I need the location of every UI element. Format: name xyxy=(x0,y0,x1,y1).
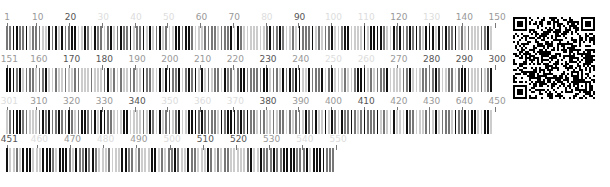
sequence-bar xyxy=(22,148,24,172)
sequence-bar xyxy=(341,26,343,50)
sequence-bar xyxy=(141,148,143,172)
sequence-bar xyxy=(247,110,249,134)
sequence-bar xyxy=(406,26,408,50)
sequence-bar xyxy=(45,68,47,92)
sequence-bar xyxy=(19,26,21,50)
sequence-bar xyxy=(403,26,405,50)
sequence-bar xyxy=(165,110,167,134)
sequence-bar xyxy=(68,26,70,50)
position-label: 350 xyxy=(161,96,178,106)
sequence-bar xyxy=(484,26,486,50)
sequence-bar xyxy=(237,68,239,92)
sequence-bar xyxy=(263,148,265,172)
sequence-bar xyxy=(55,148,57,172)
sequence-bar xyxy=(112,148,114,172)
sequence-bar xyxy=(416,68,418,92)
sequence-bar xyxy=(120,68,122,92)
sequence-bar xyxy=(299,68,301,92)
position-label: 640 xyxy=(456,96,473,106)
sequence-bar xyxy=(175,26,177,50)
sequence-bar xyxy=(177,148,179,172)
position-label: 400 xyxy=(325,96,342,106)
barcode-bars xyxy=(6,26,497,50)
sequence-bar xyxy=(217,148,219,172)
sequence-bar xyxy=(279,110,281,134)
sequence-bar xyxy=(97,110,99,134)
sequence-bar xyxy=(123,110,125,134)
sequence-bar xyxy=(144,148,146,172)
sequence-bar xyxy=(94,26,96,50)
sequence-bar xyxy=(211,110,213,134)
sequence-bar xyxy=(117,26,119,50)
sequence-bar xyxy=(19,68,21,92)
sequence-bar xyxy=(458,68,460,92)
sequence-bar xyxy=(175,68,177,92)
sequence-bar xyxy=(146,110,148,134)
sequence-bar xyxy=(435,110,437,134)
sequence-bar xyxy=(334,110,336,134)
sequence-bar xyxy=(224,110,226,134)
position-label: 50 xyxy=(163,12,174,22)
sequence-bar xyxy=(6,148,8,172)
sequence-bar xyxy=(35,110,37,134)
sequence-bar xyxy=(36,148,38,172)
sequence-bar xyxy=(230,26,232,50)
barcode-row: 3013103203303403503603703803904004104204… xyxy=(6,96,497,134)
sequence-bar xyxy=(292,26,294,50)
sequence-bar xyxy=(214,26,216,50)
sequence-bar xyxy=(266,110,268,134)
sequence-bar xyxy=(121,148,123,172)
sequence-bar xyxy=(210,148,212,172)
sequence-bar xyxy=(286,110,288,134)
sequence-bar xyxy=(191,110,193,134)
sequence-bar xyxy=(256,110,258,134)
position-label: 180 xyxy=(96,54,113,64)
sequence-bar xyxy=(308,26,310,50)
position-label: 301 xyxy=(1,96,18,106)
sequence-bar xyxy=(13,26,15,50)
sequence-bar xyxy=(292,110,294,134)
position-label: 320 xyxy=(63,96,80,106)
sequence-bar xyxy=(396,26,398,50)
sequence-bar xyxy=(263,26,265,50)
sequence-bar xyxy=(351,68,353,92)
sequence-bar xyxy=(481,68,483,92)
sequence-bar xyxy=(360,110,362,134)
position-label: 150 xyxy=(489,12,506,22)
sequence-bar xyxy=(204,110,206,134)
sequence-bar xyxy=(188,110,190,134)
position-label: 390 xyxy=(292,96,309,106)
sequence-bar xyxy=(125,148,127,172)
sequence-bar xyxy=(328,26,330,50)
sequence-bar xyxy=(71,68,73,92)
sequence-bar xyxy=(240,68,242,92)
sequence-bar xyxy=(299,26,301,50)
sequence-bar xyxy=(474,26,476,50)
sequence-bar xyxy=(185,68,187,92)
sequence-bar xyxy=(201,110,203,134)
sequence-bar xyxy=(195,110,197,134)
sequence-bar xyxy=(58,26,60,50)
sequence-bar xyxy=(412,26,414,50)
sequence-bar xyxy=(217,26,219,50)
sequence-bar xyxy=(29,68,31,92)
sequence-bar xyxy=(312,26,314,50)
sequence-bar xyxy=(211,68,213,92)
sequence-bar xyxy=(130,68,132,92)
barcode-row: 1511601701801902002102202302402502602702… xyxy=(6,54,497,92)
sequence-bar xyxy=(143,68,145,92)
sequence-bar xyxy=(455,110,457,134)
sequence-bar xyxy=(286,148,288,172)
sequence-bar xyxy=(290,148,292,172)
sequence-bar xyxy=(266,68,268,92)
sequence-bar xyxy=(455,26,457,50)
sequence-bar xyxy=(161,148,163,172)
sequence-bar xyxy=(338,68,340,92)
sequence-bar xyxy=(237,148,239,172)
sequence-bar xyxy=(230,110,232,134)
sequence-bar xyxy=(84,26,86,50)
sequence-bar xyxy=(435,68,437,92)
sequence-bar xyxy=(240,110,242,134)
sequence-bar xyxy=(328,110,330,134)
sequence-bar xyxy=(302,68,304,92)
